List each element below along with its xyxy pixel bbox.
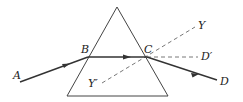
label-d-prime: D′ — [200, 50, 213, 63]
label-b: B — [80, 43, 89, 56]
arrow-icon — [62, 64, 70, 68]
label-d: D — [219, 75, 229, 88]
label-a: A — [12, 69, 21, 82]
arrow-icon — [123, 55, 131, 60]
label-y-prime: Y′ — [88, 77, 98, 90]
prism-diagram: A B C D′ D Y Y′ — [0, 0, 243, 102]
label-y: Y — [198, 19, 207, 32]
incident-ray-ab — [20, 57, 88, 82]
label-c: C — [144, 43, 153, 56]
